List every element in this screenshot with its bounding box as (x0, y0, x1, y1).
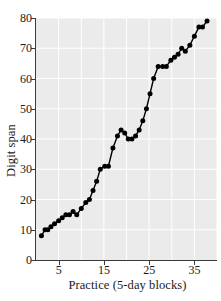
y-tick-label: 60 (10, 73, 32, 85)
data-point (137, 127, 142, 132)
y-tick-mark (31, 200, 35, 201)
data-point (144, 106, 149, 111)
data-point (133, 133, 138, 138)
y-tick-mark (31, 109, 35, 110)
data-point (151, 76, 156, 81)
y-axis-tick-labels: 01020304050607080 (10, 0, 32, 301)
x-tick-label: 15 (98, 264, 110, 276)
y-tick-label: 50 (10, 103, 32, 115)
data-point (164, 64, 169, 69)
data-point (200, 25, 205, 30)
y-tick-label: 20 (10, 194, 32, 206)
data-point (91, 188, 96, 193)
y-tick-mark (31, 169, 35, 170)
y-tick-mark (31, 79, 35, 80)
data-point (39, 233, 44, 238)
data-point (122, 130, 127, 135)
data-point (110, 146, 115, 151)
y-tick-label: 30 (10, 163, 32, 175)
x-axis-spine (35, 260, 217, 261)
data-point (156, 64, 161, 69)
x-tick-mark (104, 261, 105, 265)
x-tick-label: 35 (188, 264, 200, 276)
x-axis-title: Practice (5-day blocks) (34, 278, 221, 293)
data-point (192, 34, 197, 39)
data-point (79, 206, 84, 211)
y-tick-mark (31, 260, 35, 261)
data-point (187, 43, 192, 48)
y-tick-label: 10 (10, 224, 32, 236)
y-tick-mark (31, 48, 35, 49)
x-tick-label: 25 (143, 264, 155, 276)
y-tick-label: 70 (10, 42, 32, 54)
data-point (183, 49, 188, 54)
data-point (140, 118, 145, 123)
y-tick-mark (31, 230, 35, 231)
line-chart-svg (36, 18, 217, 260)
data-point (94, 179, 99, 184)
y-tick-label: 40 (10, 133, 32, 145)
data-point (115, 133, 120, 138)
data-point (205, 19, 210, 24)
y-tick-mark (31, 18, 35, 19)
digit-span-figure: Digit span 01020304050607080 5152535 Pra… (0, 0, 221, 301)
x-tick-mark (194, 261, 195, 265)
x-tick-label: 5 (56, 264, 62, 276)
data-point (74, 212, 79, 217)
data-point (176, 52, 181, 57)
x-tick-mark (59, 261, 60, 265)
y-tick-label: 80 (10, 12, 32, 24)
data-point (87, 197, 92, 202)
y-tick-mark (31, 139, 35, 140)
data-point (106, 164, 111, 169)
data-point (148, 91, 153, 96)
plot-area (36, 18, 217, 260)
data-point (52, 221, 57, 226)
data-point (98, 167, 103, 172)
x-tick-mark (149, 261, 150, 265)
